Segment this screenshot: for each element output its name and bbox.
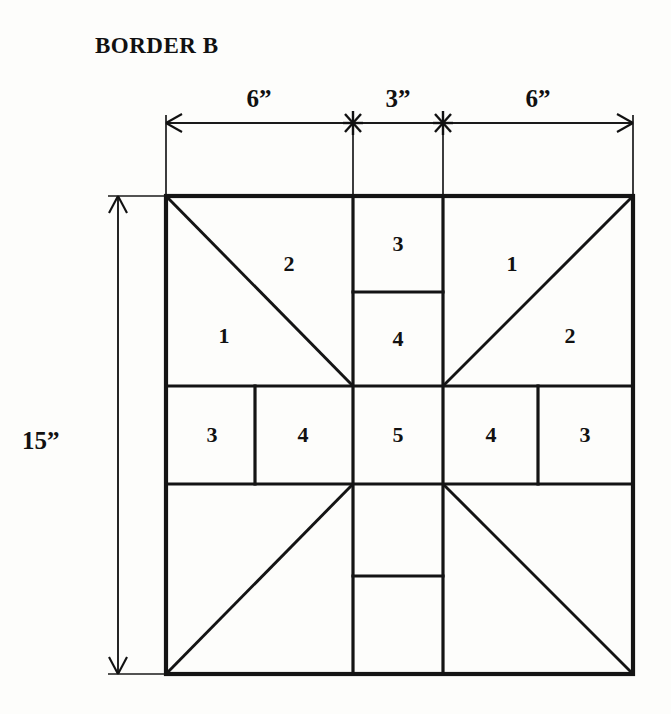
diagonal-bottom-right bbox=[443, 484, 633, 674]
dimension-label-height-15in: 15” bbox=[22, 427, 60, 454]
piece-label-top-right-2: 2 bbox=[565, 323, 576, 348]
dimension-label-center-3in: 3” bbox=[386, 85, 411, 112]
diagonal-top-right bbox=[443, 196, 633, 386]
diagonal-top-left bbox=[166, 196, 353, 386]
piece-label-top-right-1: 1 bbox=[507, 251, 518, 276]
asterisk-tick-icon-left bbox=[343, 111, 363, 135]
vertical-dimension-group: 15” bbox=[22, 196, 166, 674]
piece-label-middle-5-center: 5 bbox=[393, 422, 404, 447]
piece-label-top-center-4: 4 bbox=[393, 326, 404, 351]
border-b-block-drawing: 6” 3” 6” 15” bbox=[0, 0, 671, 714]
asterisk-tick-icon-right bbox=[433, 111, 453, 135]
piece-label-top-center-3: 3 bbox=[393, 231, 404, 256]
piece-label-top-left-1: 1 bbox=[219, 323, 230, 348]
piece-label-middle-4-left: 4 bbox=[298, 422, 309, 447]
piece-number-labels: 1 2 3 4 1 2 3 4 5 4 3 bbox=[207, 231, 591, 447]
horizontal-dimension-group: 6” 3” 6” bbox=[166, 85, 633, 200]
dimension-label-left-6in: 6” bbox=[247, 85, 272, 112]
diagonal-bottom-left bbox=[166, 484, 353, 674]
piece-label-middle-3-left: 3 bbox=[207, 422, 218, 447]
dimension-label-right-6in: 6” bbox=[526, 85, 551, 112]
piece-label-top-left-2: 2 bbox=[284, 251, 295, 276]
piece-label-middle-3-right: 3 bbox=[580, 422, 591, 447]
piece-label-middle-4-right: 4 bbox=[486, 422, 497, 447]
quilt-block-diagram-page: BORDER B bbox=[0, 0, 671, 714]
